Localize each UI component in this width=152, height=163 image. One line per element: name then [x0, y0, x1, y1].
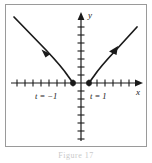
curve-left-branch: [14, 17, 73, 83]
point-marker-t-1: [86, 80, 92, 86]
plot-frame: y x t = −1 t = 1: [5, 4, 147, 147]
y-axis-label: y: [88, 11, 92, 20]
point-label-t-1: t = 1: [90, 92, 107, 101]
point-marker-t-minus-1: [70, 80, 76, 86]
figure-caption: Figure 17: [0, 152, 152, 161]
coordinate-plot: [6, 5, 146, 146]
figure-container: y x t = −1 t = 1 Figure 17: [0, 0, 152, 163]
point-label-t-minus-1: t = −1: [35, 92, 57, 101]
x-axis-label: x: [136, 88, 140, 97]
y-axis: [78, 12, 85, 141]
x-axis: [11, 80, 143, 87]
curve-right-branch: [89, 27, 137, 83]
